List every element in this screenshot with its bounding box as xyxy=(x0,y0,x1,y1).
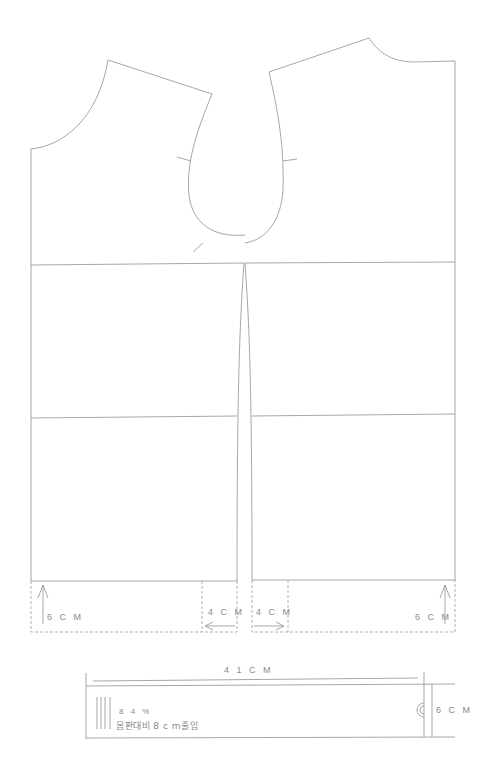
left-neckline xyxy=(31,60,108,149)
button-inner-icon xyxy=(420,706,424,714)
left-extension xyxy=(31,581,237,632)
left-bodice-piece xyxy=(31,60,245,581)
right-center-width-label: 4 C M xyxy=(256,608,293,617)
right-extension-outline xyxy=(252,580,455,632)
waistband-top-edge xyxy=(86,684,455,686)
arrow-left-icon xyxy=(205,622,235,630)
right-chest-line xyxy=(245,262,455,263)
left-side-seam xyxy=(237,263,244,581)
arrow-right-icon xyxy=(254,622,284,630)
left-armhole-notch xyxy=(177,157,191,161)
right-shoulder xyxy=(269,38,369,72)
right-side-seam xyxy=(245,263,252,580)
right-extension xyxy=(252,580,455,632)
waistband-height-label: 6 C M xyxy=(436,706,473,715)
left-armhole xyxy=(188,94,245,235)
waistband-length-dimension xyxy=(93,678,418,681)
waistband-length-label: 4 1 C M xyxy=(224,666,273,675)
right-waist-line xyxy=(252,414,455,416)
right-neckline xyxy=(369,38,455,62)
left-waist-line xyxy=(31,416,237,418)
right-armhole xyxy=(245,72,283,243)
right-armhole-notch xyxy=(283,159,297,161)
right-bodice-piece xyxy=(245,38,455,581)
waistband-percent-note: 8 4 % xyxy=(119,708,152,716)
left-chest-line xyxy=(31,263,244,265)
button-icon xyxy=(417,703,424,717)
left-extension-outline xyxy=(31,581,237,632)
left-hem-height-label: 6 C M xyxy=(47,613,84,622)
right-hem-height-label: 6 C M xyxy=(415,613,452,622)
pattern-drawing xyxy=(0,0,484,767)
waistband-bottom-edge xyxy=(86,737,455,738)
waistband-reduction-note: 몸판대비 8 c m줄임 xyxy=(116,722,198,731)
grainline-icon xyxy=(97,697,110,729)
left-center-width-label: 4 C M xyxy=(208,608,245,617)
left-armhole-notch-lower xyxy=(193,243,203,252)
left-shoulder xyxy=(108,60,212,94)
